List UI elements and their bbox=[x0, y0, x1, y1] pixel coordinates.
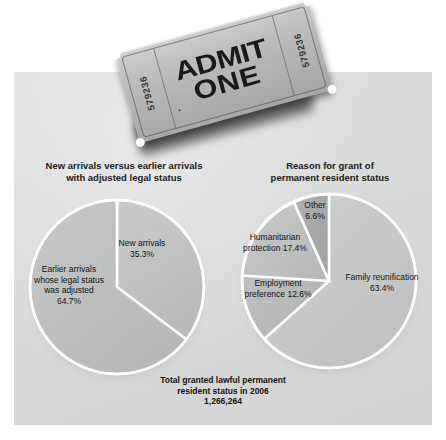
ticket-notch-icon bbox=[110, 49, 121, 60]
left-pie-label-new-arrivals: New arrivals 35.3% bbox=[104, 238, 180, 259]
label-text: Family reunification 63.4% bbox=[345, 272, 418, 293]
caption-line2: resident status in 2006 bbox=[177, 386, 269, 396]
left-pie-label-earlier-arrivals: Earlier arrivals whose legal status was … bbox=[32, 264, 106, 306]
left-chart-title-line2: with adjusted legal status bbox=[66, 172, 182, 183]
right-pie-label-family: Family reunification 63.4% bbox=[342, 272, 422, 293]
admit-one-ticket-photo: 579236 579236 ADMIT ONE bbox=[108, 8, 340, 158]
label-text: Humanitarian protection 17.4% bbox=[243, 232, 307, 253]
total-caption: Total granted lawful permanent resident … bbox=[123, 375, 323, 407]
right-chart-title: Reason for grant of permanent resident s… bbox=[240, 160, 420, 184]
right-pie-label-other: Other 6.6% bbox=[292, 200, 338, 221]
caption-total-value: 1,266,264 bbox=[204, 396, 242, 406]
right-chart-title-line1: Reason for grant of bbox=[286, 160, 374, 171]
right-pie-label-humanitarian: Humanitarian protection 17.4% bbox=[236, 232, 314, 253]
right-pie-label-employment: Employment preference 12.6% bbox=[238, 278, 318, 299]
label-text: Other 6.6% bbox=[304, 200, 325, 221]
label-text: Earlier arrivals whose legal status was … bbox=[34, 264, 104, 306]
label-text: New arrivals 35.3% bbox=[119, 238, 166, 259]
caption-line1: Total granted lawful permanent bbox=[160, 375, 285, 385]
label-text: Employment preference 12.6% bbox=[244, 278, 311, 299]
ticket-notch-icon bbox=[302, 0, 313, 7]
left-chart-title: New arrivals versus earlier arrivals wit… bbox=[26, 160, 222, 184]
right-chart-title-line2: permanent resident status bbox=[271, 172, 390, 183]
left-chart-title-line1: New arrivals versus earlier arrivals bbox=[46, 160, 203, 171]
infographic-page: 579236 579236 ADMIT ONE New arrivals ver… bbox=[0, 0, 446, 440]
ticket-notch-icon bbox=[327, 84, 338, 95]
